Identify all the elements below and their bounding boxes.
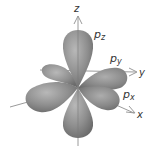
x-axis-label: x [136,109,143,120]
px-label: px [122,88,135,102]
p-orbitals-diagram: z y x pz py px [0,0,151,146]
orbital-lobes [26,30,128,138]
z-axis-label: z [73,3,80,14]
pz-label: pz [93,28,106,42]
py-label: py [109,52,122,66]
y-axis-label: y [138,67,146,78]
